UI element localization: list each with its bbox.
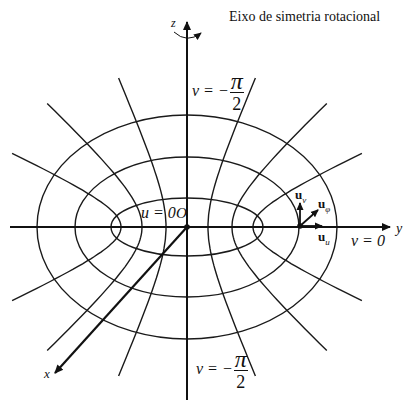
v-top-fraction: π2	[230, 71, 244, 113]
v-bottom-prefix: v = −	[196, 360, 233, 377]
unit-vector-v-label: uv	[295, 188, 306, 205]
x-axis	[55, 227, 187, 373]
v-top-numerator: π	[231, 71, 243, 91]
unit-vector-u-label: uu	[318, 230, 330, 247]
v-bottom-label: v = −π2	[196, 349, 248, 391]
unit-vector-phi-arrow	[300, 210, 318, 226]
rotational-symmetry-axis-label: Eixo de simetria rotacional	[229, 10, 380, 24]
v-top-label: v = −π2	[192, 71, 244, 113]
unit-vector-phi-label: uφ	[318, 197, 330, 214]
origin-label: O	[176, 206, 187, 221]
v-zero-label: v = 0	[351, 233, 385, 249]
origin-point	[184, 224, 190, 230]
u-zero-label: u = 0	[141, 205, 176, 221]
v-top-prefix: v = −	[192, 82, 229, 99]
z-axis-label: z	[171, 17, 176, 29]
x-axis-label: x	[44, 367, 50, 380]
v-bottom-fraction: π2	[234, 349, 248, 391]
v-bottom-denominator: 2	[236, 373, 245, 391]
y-axis-label: y	[396, 222, 402, 236]
v-bottom-numerator: π	[235, 349, 247, 369]
diagram-canvas: Eixo de simetria rotacional z y x O u = …	[0, 0, 415, 412]
v-top-denominator: 2	[232, 95, 241, 113]
